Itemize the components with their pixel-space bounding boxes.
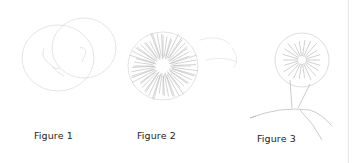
figure-3-caption: Figure 3 xyxy=(257,133,296,144)
figure-2-caption: Figure 2 xyxy=(137,130,176,141)
page-edge-divider xyxy=(348,0,349,163)
figure-3-sketch xyxy=(250,33,332,140)
figure-1-caption: Figure 1 xyxy=(34,130,73,141)
